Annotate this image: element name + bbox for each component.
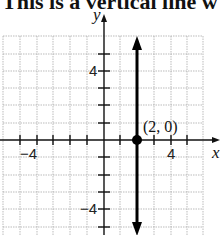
point-label: (2, 0) <box>143 118 178 136</box>
x-axis <box>0 135 216 145</box>
x-tick-label-4: 4 <box>167 145 175 162</box>
line-arrow-up-icon <box>132 36 142 50</box>
y-tick-label-neg4: −4 <box>80 200 97 217</box>
y-axis <box>98 17 110 235</box>
y-tick-label-4: 4 <box>89 62 97 79</box>
point-2-0 <box>132 135 142 145</box>
y-axis-label: y <box>91 5 101 24</box>
x-tick-label-neg4: −4 <box>20 145 37 162</box>
x-axis-label: x <box>211 143 220 162</box>
y-axis-arrow-icon <box>101 14 107 22</box>
line-arrow-down-icon <box>132 222 142 235</box>
coordinate-graph: y x −4 4 4 −4 (2, 0) <box>0 0 222 235</box>
grid <box>3 36 203 235</box>
